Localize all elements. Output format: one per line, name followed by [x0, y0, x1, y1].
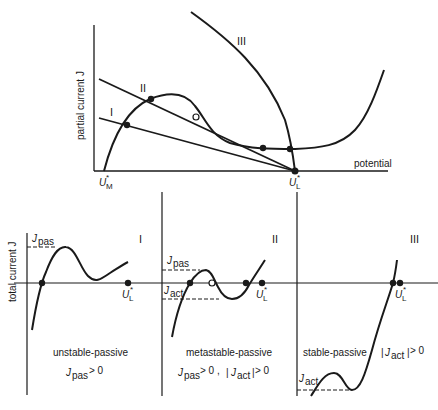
intersection-I [124, 122, 130, 128]
panel-I-roman: I [139, 233, 142, 245]
svg-text:J: J [65, 367, 72, 378]
total-current-curve-III [311, 260, 397, 396]
zero-crossing-II-stable-passive [243, 280, 249, 286]
svg-text:pas: pas [38, 236, 54, 247]
panel-III-roman: III [410, 233, 419, 245]
svg-text:L: L [402, 294, 407, 303]
panel-II-condition: J pas > 0 , | J act | > 0 [177, 365, 270, 381]
panel-I-condition: J pas > 0 [65, 365, 104, 381]
panel-II-J-act-label: J act [163, 285, 184, 299]
panel-III-condition: | J act | > 0 [381, 345, 425, 361]
top-y-axis-label: partial current J [75, 71, 86, 140]
bottom-y-axis-label: total current J [7, 241, 18, 302]
svg-text:> 0: > 0 [89, 365, 104, 376]
zero-crossing-I [39, 280, 45, 286]
label-curve-I: I [110, 106, 113, 118]
svg-text:J: J [384, 347, 391, 358]
svg-text:L: L [263, 294, 268, 303]
panel-I-U-L-label: U L * [122, 285, 134, 303]
svg-text:|: | [226, 367, 229, 378]
intersection-II-passive [260, 145, 266, 151]
panel-II-roman: II [272, 233, 278, 245]
svg-text:> 0: > 0 [410, 345, 425, 356]
svg-text:pas: pas [184, 370, 200, 381]
label-curve-II: II [140, 82, 146, 94]
svg-text:*: * [297, 173, 300, 182]
panel-II-title: metastable-passive [186, 347, 273, 358]
intersection-II-unstable [193, 114, 199, 120]
panel-I [27, 247, 131, 330]
svg-text:act: act [237, 370, 251, 381]
svg-text:J: J [31, 233, 38, 244]
svg-text:|: | [381, 347, 384, 358]
svg-text:pas: pas [173, 258, 189, 269]
zero-crossing-III [390, 280, 396, 286]
panel-I-J-pas-label: J pas [31, 233, 54, 247]
svg-text:act: act [170, 288, 184, 299]
svg-text:> 0 ,: > 0 , [200, 365, 220, 376]
svg-text:M: M [106, 182, 113, 191]
svg-text:J: J [298, 373, 305, 384]
svg-text:act: act [391, 350, 405, 361]
marker-U-M: U M * [99, 173, 113, 191]
intersection-III [287, 146, 293, 152]
panel-II-U-L-label: U L * [256, 285, 268, 303]
panel-I-title: unstable-passive [53, 347, 128, 358]
zero-crossing-II-unstable [209, 280, 215, 286]
zero-crossing-II-stable-active [187, 280, 193, 286]
svg-text:J: J [163, 285, 170, 296]
panel-II-J-pas-label: J pas [166, 255, 189, 269]
svg-text:J: J [177, 367, 184, 378]
svg-text:pas: pas [72, 370, 88, 381]
svg-text:J: J [166, 255, 173, 266]
svg-text:J: J [230, 367, 237, 378]
svg-text:*: * [264, 285, 267, 294]
panel-III-J-act-label: J act [298, 373, 319, 387]
svg-text:> 0: > 0 [255, 365, 270, 376]
panel-III-U-L-label: U L * [395, 285, 407, 303]
svg-text:L: L [296, 182, 301, 191]
svg-text:*: * [130, 285, 133, 294]
passivity-diagram: I II III potential partial current J U M… [0, 0, 438, 410]
top-x-axis-label: potential [354, 158, 392, 169]
svg-text:act: act [305, 376, 319, 387]
svg-text:*: * [403, 285, 406, 294]
svg-text:*: * [106, 173, 109, 182]
label-curve-III: III [237, 35, 246, 47]
intersection-II-active [148, 96, 154, 102]
marker-U-L-top: U L * [289, 173, 301, 191]
total-current-curve-I [32, 247, 128, 330]
svg-text:L: L [129, 294, 134, 303]
panel-III-title: stable-passive [303, 347, 367, 358]
